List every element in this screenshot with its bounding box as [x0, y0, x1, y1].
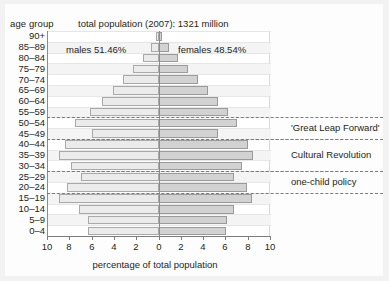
x-tick-label: 2: [171, 241, 191, 252]
bar-female: [159, 162, 242, 171]
bar-male: [81, 173, 159, 182]
x-tick-label: 6: [215, 241, 235, 252]
age-group-tick-40-44: 40–44: [1, 138, 45, 149]
age-group-tick-65-69: 65–69: [1, 84, 45, 95]
bar-male: [143, 54, 159, 63]
bar-female: [159, 54, 178, 63]
legend-males: males 51.46%: [66, 44, 126, 55]
x-tick-mark: [114, 236, 115, 240]
bar-female: [159, 216, 227, 225]
age-group-tick-85-89: 85–89: [1, 41, 45, 52]
legend-females: females 48.54%: [178, 44, 246, 55]
bar-female: [159, 227, 226, 236]
bar-female: [159, 65, 188, 74]
age-group-tick-20-24: 20–24: [1, 181, 45, 192]
x-axis-title: percentage of total population: [0, 259, 310, 270]
x-tick-mark: [159, 236, 160, 240]
bar-male: [123, 75, 159, 84]
annotation-label: 'Great Leap Forward': [291, 122, 380, 133]
x-tick-mark: [225, 236, 226, 240]
bar-male: [102, 97, 159, 106]
age-group-tick-10-14: 10–14: [1, 203, 45, 214]
y-axis-title: age group: [10, 18, 54, 29]
bar-male: [151, 43, 159, 52]
x-tick-label: 4: [193, 241, 213, 252]
bar-male: [133, 65, 159, 74]
annotation-dashed-line: [47, 193, 383, 194]
x-tick-mark: [181, 236, 182, 240]
bar-female: [159, 86, 208, 95]
x-tick-mark: [270, 236, 271, 240]
bar-female: [159, 151, 253, 160]
annotation-dashed-line: [47, 171, 383, 172]
page-edge-top: [0, 0, 389, 4]
bar-male: [59, 151, 159, 160]
zero-axis-line: [159, 31, 160, 236]
bar-male: [92, 129, 159, 138]
page-edge-right: [383, 0, 389, 281]
x-tick-mark: [69, 236, 70, 240]
x-tick-mark: [136, 236, 137, 240]
bar-male: [71, 162, 159, 171]
bar-female: [159, 173, 234, 182]
age-group-tick-35-39: 35–39: [1, 149, 45, 160]
bar-female: [159, 119, 237, 128]
bar-female: [159, 194, 252, 203]
annotation-label: one-child policy: [291, 176, 356, 187]
bar-female: [159, 108, 228, 117]
plot-area: [47, 31, 270, 236]
age-group-tick-80-84: 80–84: [1, 52, 45, 63]
bar-female: [159, 183, 247, 192]
bar-female: [159, 140, 248, 149]
x-tick-label: 4: [104, 241, 124, 252]
age-group-tick-0-4: 0–4: [1, 225, 45, 236]
bar-male: [67, 183, 159, 192]
annotation-dashed-line: [47, 117, 383, 118]
x-tick-label: 8: [59, 241, 79, 252]
age-group-tick-30-34: 30–34: [1, 160, 45, 171]
bar-female: [159, 129, 218, 138]
bar-male: [113, 86, 159, 95]
age-group-tick-5-9: 5–9: [1, 214, 45, 225]
age-group-tick-75-79: 75–79: [1, 63, 45, 74]
bar-male: [90, 108, 159, 117]
age-group-tick-25-29: 25–29: [1, 171, 45, 182]
annotation-dashed-line: [47, 139, 383, 140]
x-tick-mark: [47, 236, 48, 240]
x-tick-mark: [248, 236, 249, 240]
bar-female: [159, 43, 169, 52]
age-group-tick-45-49: 45–49: [1, 128, 45, 139]
chart-title: total population (2007): 1321 million: [78, 18, 229, 29]
y-axis-tick-labels: 90+85–8980–8475–7970–7465–6960–6455–5950…: [0, 31, 45, 236]
age-group-tick-90+: 90+: [1, 30, 45, 41]
x-tick-label: 10: [260, 241, 280, 252]
bar-female: [159, 75, 198, 84]
x-tick-label: 0: [149, 241, 169, 252]
page-edge-bottom: [0, 276, 389, 281]
x-tick-label: 6: [82, 241, 102, 252]
bar-male: [88, 216, 159, 225]
bar-male: [79, 205, 159, 214]
bar-male: [65, 140, 159, 149]
x-tick-label: 2: [126, 241, 146, 252]
x-tick-mark: [92, 236, 93, 240]
age-group-tick-60-64: 60–64: [1, 95, 45, 106]
x-tick-mark: [203, 236, 204, 240]
bar-male: [88, 227, 159, 236]
x-tick-label: 10: [37, 241, 57, 252]
age-group-tick-70-74: 70–74: [1, 74, 45, 85]
bar-female: [159, 205, 234, 214]
bar-male: [59, 194, 159, 203]
age-group-tick-50-54: 50–54: [1, 117, 45, 128]
bar-female: [159, 97, 218, 106]
annotation-label: Cultural Revolution: [291, 149, 371, 160]
figure-container: age group total population (2007): 1321 …: [0, 0, 389, 281]
bar-male: [75, 119, 159, 128]
age-group-tick-55-59: 55–59: [1, 106, 45, 117]
x-tick-label: 8: [238, 241, 258, 252]
age-group-tick-15-19: 15–19: [1, 192, 45, 203]
